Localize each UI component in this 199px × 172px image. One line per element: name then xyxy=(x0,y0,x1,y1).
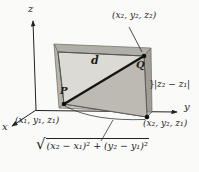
diagonal-d-label: d xyxy=(91,55,99,67)
y-axis-label: y xyxy=(184,101,190,112)
z-axis-label: z xyxy=(28,3,33,14)
radical-sign: √ xyxy=(36,137,46,152)
x-axis-label: x xyxy=(2,121,8,132)
z-axis-line xyxy=(33,21,36,110)
horizontal-distance-formula: √ (x₂ − x₁)² + (y₂ − y₁)² xyxy=(36,138,149,153)
point-Q-label: Q xyxy=(136,59,145,70)
q-coordinates-label: (x₂, y₂, z₂) xyxy=(112,11,156,21)
radicand-expression: (x₂ − x₁)² + (y₂ − y₁)² xyxy=(46,138,149,153)
p-coordinates-label: (x₁, y₁, z₁) xyxy=(15,116,59,126)
figure-stage: z x y P Q d (x₂, y₂, z₂) (x₁, y₁, z₁) (x… xyxy=(0,0,199,172)
point-P-label: P xyxy=(60,85,68,96)
point-Q-dot xyxy=(142,54,147,59)
z-distance-label: |z₂ − z₁| xyxy=(154,80,190,90)
point-P-dot xyxy=(62,102,67,107)
base-coordinates-label: (x₂, y₂, z₁) xyxy=(143,119,187,129)
